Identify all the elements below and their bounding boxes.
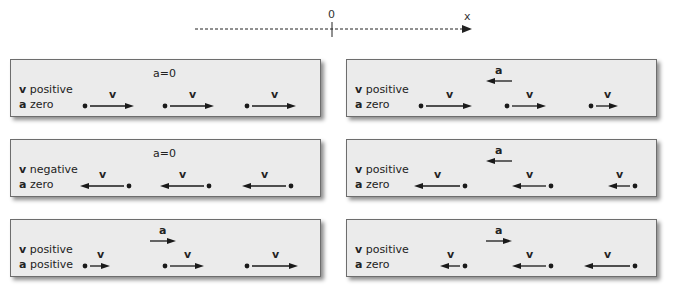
object-dot	[289, 184, 294, 189]
velocity-arrow-right-icon	[426, 103, 472, 109]
accel-zero-label: a=0	[153, 67, 176, 80]
accel-arrow-left-icon	[486, 158, 512, 164]
object-dot	[83, 104, 88, 109]
accel-arrow-right-icon	[150, 238, 176, 244]
object-dot	[549, 184, 554, 189]
velocity-label: v	[447, 248, 455, 261]
motion-diagram: a=0vvv	[11, 140, 322, 198]
velocity-label: v	[446, 88, 454, 101]
object-dot	[633, 184, 638, 189]
velocity-arrow-right-icon	[596, 103, 618, 109]
panel-row1-right: v positive a zero avvv	[346, 59, 657, 117]
velocity-arrow-left-icon	[80, 183, 124, 189]
velocity-arrow-left-icon	[160, 183, 204, 189]
panel-row1-left: v positive a zero a=0vvv	[10, 59, 321, 117]
velocity-label: v	[604, 88, 612, 101]
object-dot	[633, 264, 638, 269]
velocity-arrow-left-icon	[242, 183, 286, 189]
velocity-arrow-right-icon	[170, 263, 204, 269]
motion-diagram: avvv	[11, 220, 322, 278]
velocity-label: v	[271, 88, 279, 101]
velocity-arrow-left-icon	[414, 183, 460, 189]
velocity-arrow-right-icon	[252, 263, 298, 269]
object-dot	[163, 264, 168, 269]
velocity-arrow-left-icon	[440, 263, 460, 269]
velocity-label: v	[434, 168, 442, 181]
accel-label: a	[495, 224, 502, 237]
x-axis: 0 x	[0, 0, 676, 45]
motion-diagram: avvv	[347, 60, 658, 118]
object-dot	[245, 264, 250, 269]
x-axis-line	[0, 0, 676, 45]
motion-diagram: a=0vvv	[11, 60, 322, 118]
object-dot	[549, 264, 554, 269]
velocity-label: v	[189, 88, 197, 101]
velocity-arrow-right-icon	[512, 103, 546, 109]
velocity-arrow-left-icon	[512, 183, 546, 189]
velocity-label: v	[97, 248, 105, 261]
motion-diagram: avvv	[347, 140, 658, 198]
axis-x-label: x	[464, 10, 471, 23]
velocity-arrow-left-icon	[512, 263, 546, 269]
accel-arrow-right-icon	[486, 238, 512, 244]
accel-zero-label: a=0	[153, 147, 176, 160]
velocity-label: v	[179, 168, 187, 181]
velocity-arrow-right-icon	[170, 103, 214, 109]
object-dot	[245, 104, 250, 109]
velocity-label: v	[184, 248, 192, 261]
origin-label: 0	[328, 8, 335, 21]
panel-row3-left: v positive a positive avvv	[10, 219, 321, 277]
velocity-label: v	[99, 168, 107, 181]
accel-label: a	[495, 64, 502, 77]
velocity-label: v	[604, 248, 612, 261]
velocity-label: v	[526, 248, 534, 261]
panel-row2-right: v positive a zero avvv	[346, 139, 657, 197]
velocity-arrow-right-icon	[90, 103, 134, 109]
object-dot	[589, 104, 594, 109]
velocity-arrow-right-icon	[252, 103, 296, 109]
accel-label: a	[159, 224, 166, 237]
object-dot	[127, 184, 132, 189]
panel-row3-right: v positive a zero avvv	[346, 219, 657, 277]
object-dot	[163, 104, 168, 109]
velocity-label: v	[261, 168, 269, 181]
object-dot	[207, 184, 212, 189]
object-dot	[505, 104, 510, 109]
velocity-label: v	[109, 88, 117, 101]
accel-label: a	[495, 144, 502, 157]
accel-arrow-left-icon	[486, 78, 512, 84]
velocity-arrow-left-icon	[608, 183, 630, 189]
velocity-label: v	[526, 168, 534, 181]
object-dot	[463, 264, 468, 269]
velocity-label: v	[272, 248, 280, 261]
velocity-arrow-right-icon	[90, 263, 110, 269]
object-dot	[83, 264, 88, 269]
velocity-arrow-left-icon	[584, 263, 630, 269]
velocity-label: v	[526, 88, 534, 101]
motion-diagram: avvv	[347, 220, 658, 278]
object-dot	[419, 104, 424, 109]
panel-row2-left: v negative a zero a=0vvv	[10, 139, 321, 197]
object-dot	[463, 184, 468, 189]
velocity-label: v	[616, 168, 624, 181]
